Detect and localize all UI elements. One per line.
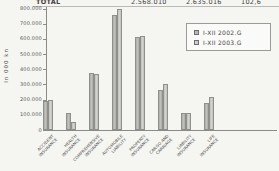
bar-2003-cat7 — [186, 113, 191, 130]
legend-item-2003: I-XII 2003.G — [194, 39, 270, 46]
x-axis-line — [46, 130, 277, 131]
legend-swatch-2002-icon — [194, 30, 199, 35]
bar-2003-cat2 — [71, 122, 76, 130]
bar-2003-cat3 — [94, 74, 99, 130]
y-tick-label: 700.000 — [16, 21, 42, 26]
y-tick-label: 300.000 — [16, 82, 42, 87]
y-tick-mark — [43, 24, 46, 25]
y-tick-mark — [43, 69, 46, 70]
bar-2003-cat6 — [163, 84, 168, 130]
legend-label-2003: I-XII 2003.G — [203, 39, 242, 46]
y-tick-label: 100.000 — [16, 112, 42, 117]
y-tick-mark — [43, 84, 46, 85]
header-divider — [33, 6, 279, 7]
y-tick-label: 200.000 — [16, 97, 42, 102]
bar-2003-cat5 — [140, 36, 145, 130]
scanned-chart-page: TOTAL 2.568.010 2.635.016 102,6 In 000 k… — [0, 0, 279, 171]
y-tick-label: 0 — [16, 128, 42, 133]
bar-2003-cat8 — [209, 97, 214, 130]
y-tick-label: 800.000 — [16, 6, 42, 11]
legend-item-2002: I-XII 2002.G — [194, 29, 270, 36]
y-tick-label: 400.000 — [16, 67, 42, 72]
y-tick-mark — [43, 9, 46, 10]
bar-2003-cat4 — [117, 9, 122, 130]
y-tick-label: 500.000 — [16, 52, 42, 57]
y-tick-mark — [43, 130, 46, 131]
y-tick-mark — [43, 39, 46, 40]
legend-swatch-2003-icon — [194, 40, 199, 45]
legend-label-2002: I-XII 2002.G — [203, 29, 242, 36]
y-tick-label: 600.000 — [16, 36, 42, 41]
bar-2003-cat1 — [48, 100, 53, 130]
y-tick-mark — [43, 54, 46, 55]
y-axis-title: In 000 kn — [3, 48, 9, 83]
chart-legend: I-XII 2002.G I-XII 2003.G — [186, 23, 271, 51]
